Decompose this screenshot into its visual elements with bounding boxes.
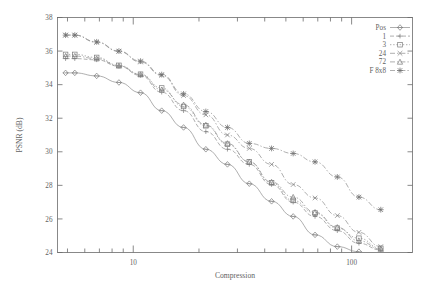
legend-item-pos[interactable]: Pos [376, 24, 410, 32]
legend-label: 72 [379, 58, 387, 66]
series-line [66, 59, 381, 250]
x-tick-label: 100 [346, 259, 357, 267]
legend-item-3[interactable]: 3 [382, 41, 410, 49]
y-tick-label: 26 [45, 216, 53, 224]
data-point-marker [63, 32, 69, 38]
legend-item-72[interactable]: 72 [379, 58, 410, 66]
series-72 [63, 53, 383, 251]
legend-label: 3 [382, 41, 386, 49]
x-axis-title: Compression [215, 271, 255, 280]
data-point-marker [269, 162, 274, 167]
y-tick-label: 38 [45, 14, 53, 22]
series-line [66, 56, 381, 249]
series-1 [63, 56, 383, 252]
legend-label: 24 [379, 50, 387, 58]
data-point-marker [159, 72, 165, 78]
legend-label: Pos [376, 24, 387, 32]
y-tick-label: 34 [45, 81, 53, 89]
x-tick-label: 10 [130, 259, 138, 267]
chart-canvas: 242628303234363810100CompressionPSNR (dB… [0, 0, 424, 287]
data-point-marker [378, 207, 384, 213]
y-tick-label: 24 [45, 249, 53, 257]
series-24 [63, 33, 383, 249]
data-point-marker [72, 32, 78, 38]
series-f-8x8 [63, 32, 384, 212]
data-point-marker [269, 146, 275, 152]
data-point-marker [181, 91, 187, 97]
series-line [66, 54, 381, 248]
data-point-marker [203, 109, 209, 115]
y-tick-label: 36 [45, 48, 53, 56]
y-tick-label: 28 [45, 182, 53, 190]
data-point-marker [225, 147, 230, 152]
data-point-marker [356, 194, 362, 200]
legend-label: F 8x8 [369, 67, 386, 75]
data-point-marker [290, 151, 296, 157]
data-point-marker [398, 34, 403, 39]
y-tick-label: 32 [45, 115, 53, 123]
data-point-marker [94, 39, 100, 45]
data-point-marker [204, 129, 209, 134]
data-point-marker [397, 68, 403, 74]
legend-item-24[interactable]: 24 [379, 50, 410, 58]
series-3 [63, 52, 383, 250]
legend-label: 1 [382, 33, 386, 41]
data-point-marker [138, 58, 144, 64]
series-line [66, 35, 381, 210]
data-point-marker [312, 159, 318, 165]
data-point-marker [246, 140, 252, 146]
data-point-marker [116, 48, 122, 54]
data-point-marker [225, 125, 231, 131]
y-axis-title: PSNR (dB) [15, 117, 24, 152]
legend-item-f-8x8[interactable]: F 8x8 [369, 67, 410, 75]
chart-figure: 242628303234363810100CompressionPSNR (dB… [0, 0, 424, 287]
plot-frame [58, 18, 413, 253]
legend-item-1[interactable]: 1 [382, 33, 410, 41]
data-point-marker [334, 174, 340, 180]
y-tick-label: 30 [45, 148, 53, 156]
series-line [66, 35, 381, 247]
